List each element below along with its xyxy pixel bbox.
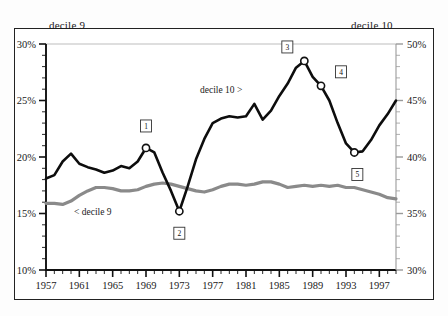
x-axis-tick-label: 1981 — [236, 280, 257, 291]
right-axis-tick-label: 35% — [407, 208, 427, 219]
marker-label-text: 3 — [285, 43, 289, 52]
marker-label-text: 5 — [355, 170, 359, 179]
right-axis-tick-label: 45% — [407, 95, 427, 106]
x-axis-tick-label: 1989 — [302, 280, 323, 291]
x-axis-tick-label: 1961 — [69, 280, 90, 291]
decile-9-inline-label: < decile 9 — [74, 207, 112, 217]
data-point-marker — [301, 57, 308, 64]
x-axis-tick-label: 1977 — [202, 280, 223, 291]
marker-label-text: 1 — [144, 122, 148, 131]
y-axis-tick-label: 20% — [17, 152, 37, 163]
x-axis-tick-label: 1957 — [36, 280, 57, 291]
x-axis-tick-label: 1973 — [169, 280, 190, 291]
series-line-decile-9 — [46, 182, 396, 205]
y-axis-tick-label: 10% — [17, 265, 37, 276]
data-point-marker — [142, 144, 149, 151]
right-axis-tick-label: 50% — [407, 39, 427, 50]
right-axis-tick-label: 30% — [407, 265, 427, 276]
decile-10-inline-label: decile 10 > — [200, 85, 242, 95]
y-axis-tick-label: 30% — [17, 39, 37, 50]
x-axis-tick-label: 1997 — [369, 280, 390, 291]
chart-plot: 10%15%20%25%30%30%35%40%45%50%1957196119… — [0, 0, 448, 316]
x-axis-tick-label: 1985 — [269, 280, 290, 291]
x-axis-tick-label: 1965 — [102, 280, 123, 291]
marker-label-text: 4 — [339, 68, 343, 77]
data-point-marker — [176, 208, 183, 215]
y-axis-tick-label: 15% — [17, 208, 37, 219]
x-axis-tick-label: 1969 — [136, 280, 157, 291]
chart-figure: decile 9 decile 10 10%15%20%25%30%30%35%… — [0, 0, 448, 316]
data-point-marker — [351, 149, 358, 156]
data-point-marker — [317, 82, 324, 89]
right-axis-tick-label: 40% — [407, 152, 427, 163]
x-axis-tick-label: 1993 — [336, 280, 357, 291]
marker-label-text: 2 — [177, 229, 181, 238]
y-axis-tick-label: 25% — [17, 95, 37, 106]
